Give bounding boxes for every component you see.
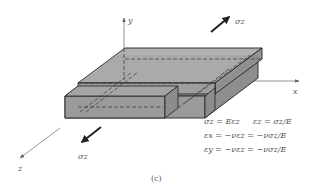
y-axis-label: y bbox=[127, 16, 133, 25]
x-axis: x bbox=[248, 81, 299, 96]
equation-strain-x: εx = −νεz = −νσz/E bbox=[204, 131, 286, 140]
uniaxial-stress-diagram: y x z bbox=[0, 0, 323, 185]
y-axis: y bbox=[124, 16, 133, 48]
stress-label-bottom: σz bbox=[78, 152, 88, 161]
stress-arrow-bottom-left: σz bbox=[78, 127, 101, 161]
x-axis-label: x bbox=[293, 87, 298, 96]
stress-arrow-top-right: σz bbox=[211, 17, 245, 32]
z-axis-label: z bbox=[17, 164, 23, 173]
equation-strain-z: εz = σz/E bbox=[253, 117, 292, 126]
equation-strain-y: εy = −νεz = −νσz/E bbox=[204, 145, 286, 154]
figure-caption: (c) bbox=[151, 174, 162, 183]
z-axis: z bbox=[17, 128, 60, 173]
equation-hooke: σz = Eεz bbox=[204, 117, 241, 126]
stress-label-top: σz bbox=[235, 17, 245, 26]
equations: σz = Eεz εz = σz/E εx = −νεz = −νσz/E εy… bbox=[204, 117, 292, 154]
